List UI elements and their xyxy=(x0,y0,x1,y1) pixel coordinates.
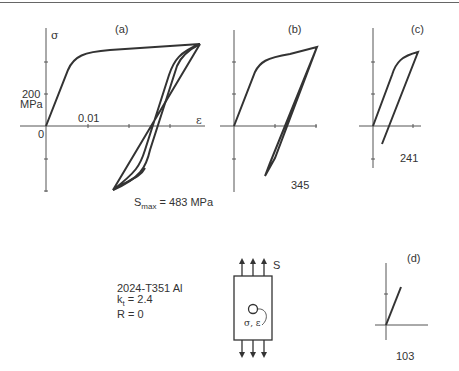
panel-d-label: (d) xyxy=(407,253,420,264)
load-label: S xyxy=(273,260,280,271)
smax-label: Smax = 483 MPa xyxy=(134,197,213,211)
panel-c-curve xyxy=(373,52,418,144)
panel-b-label: (b) xyxy=(288,24,301,35)
panel-c-label: (c) xyxy=(411,24,424,35)
panel-b-smax: 345 xyxy=(291,180,309,191)
panel-c-smax: 241 xyxy=(400,153,418,164)
stress-axis-label: σ xyxy=(51,30,59,41)
panel-d-smax: 103 xyxy=(396,351,414,362)
strain-axis-label: ε xyxy=(196,115,202,126)
specimen-info: 2024-T351 Al kt = 2.4 R = 0 xyxy=(117,283,182,320)
r-ratio-label: R = 0 xyxy=(117,309,182,320)
figure-canvas xyxy=(0,0,459,371)
panel-a-label: (a) xyxy=(115,24,128,35)
panel-c-axes xyxy=(359,28,421,168)
panel-a-axes xyxy=(20,28,205,192)
panel-d-axes xyxy=(375,263,428,340)
panel-b-curve xyxy=(234,47,317,176)
panel-d-curve xyxy=(386,287,401,325)
x-tick-label: 0.01 xyxy=(78,113,99,124)
kt-label: kt = 2.4 xyxy=(117,294,182,309)
origin-label: 0 xyxy=(38,129,44,140)
specimen-diagram xyxy=(234,262,272,354)
notch-label: σ, ε xyxy=(244,319,261,328)
y-unit-label: MPa xyxy=(20,99,43,110)
